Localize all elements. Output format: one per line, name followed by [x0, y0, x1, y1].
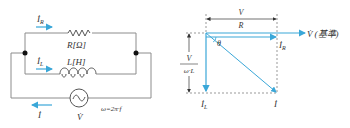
reference-label: V̇ (基準): [307, 29, 339, 39]
node-right: [134, 51, 139, 56]
label-IL-phasor: İL: [200, 99, 208, 110]
source-label: V̇: [77, 112, 84, 122]
label-IL: İL: [36, 56, 44, 67]
label-I-phasor: İ: [273, 99, 278, 109]
resistor-icon: [68, 30, 90, 36]
outer-wire-right: [88, 53, 151, 98]
frac-top-num: V: [239, 8, 245, 17]
inductor-icon: [60, 68, 96, 77]
phasor-diagram: V R V ω·L θ V̇ (基準) İR İL İ: [178, 8, 339, 110]
label-I: İ: [37, 110, 42, 120]
inductor-label: L[H]: [66, 57, 86, 67]
inductor-branch-wire-right: [96, 53, 136, 74]
omega-label: ω=2π·f: [101, 105, 122, 113]
sine-wave-icon: [73, 95, 85, 101]
label-IR-phasor: İR: [278, 40, 286, 51]
resistor-label: R[Ω]: [66, 40, 87, 50]
outer-wire-left: [11, 53, 70, 98]
node-left: [23, 51, 28, 56]
angle-theta: θ: [217, 39, 221, 48]
resistor-branch-wire: [25, 33, 68, 53]
frac-top-den: R: [238, 21, 244, 30]
frac-left-den: ω·L: [184, 67, 195, 75]
resistor-branch-wire-right: [92, 33, 136, 53]
label-IR: İR: [36, 14, 44, 25]
diagram-canvas: İR R[Ω] İL L[H] İ V̇ ω=2π·f V R V ω·L θ …: [0, 0, 350, 128]
